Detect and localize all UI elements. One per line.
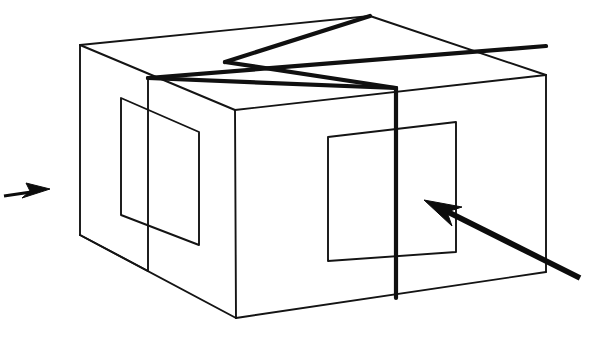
edge-vertical-front-left bbox=[235, 110, 236, 318]
left-arrow-head bbox=[22, 183, 50, 198]
front-face-fill bbox=[235, 75, 546, 318]
figure-canvas: Perspective line drawing of a rectangula… bbox=[0, 0, 611, 341]
left-direction-arrow bbox=[4, 183, 50, 198]
box-line-drawing: Perspective line drawing of a rectangula… bbox=[0, 0, 611, 341]
